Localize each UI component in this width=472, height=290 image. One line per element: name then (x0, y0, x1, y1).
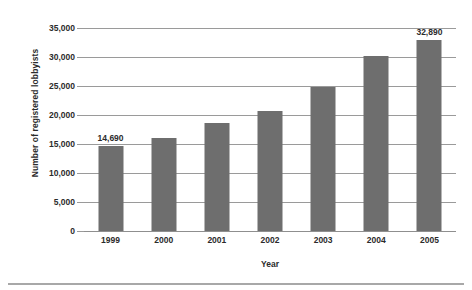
y-tick-label: 15,000 (49, 139, 75, 149)
y-tick-label: 10,000 (49, 168, 75, 178)
bar-chart-figure: Number of registered lobbyists 05,00010,… (0, 0, 472, 290)
bar-group-1999[interactable]: 14,6901999 (84, 28, 137, 231)
y-tick-label: 25,000 (49, 81, 75, 91)
y-axis-title: Number of registered lobbyists (30, 18, 40, 208)
x-tick-label-2000: 2000 (154, 235, 173, 245)
x-tick-label-2001: 2001 (207, 235, 226, 245)
y-tick-label: 20,000 (49, 110, 75, 120)
y-tick-mark-35000 (77, 28, 84, 29)
bar-2002[interactable] (257, 111, 282, 231)
y-tick-label: 0 (70, 226, 75, 236)
bar-2003[interactable] (311, 87, 336, 231)
bar-group-2004[interactable]: 2004 (350, 28, 403, 231)
bar-group-2000[interactable]: 2000 (137, 28, 190, 231)
bar-value-label-1999: 14,690 (98, 133, 124, 143)
bar-2001[interactable] (204, 123, 229, 231)
y-tick-label: 30,000 (49, 52, 75, 62)
x-tick-label-2005: 2005 (420, 235, 439, 245)
bar-2004[interactable] (364, 56, 389, 231)
y-tick-mark-5000 (77, 202, 84, 203)
y-tick-label: 5,000 (54, 197, 75, 207)
bar-1999[interactable] (98, 146, 123, 231)
y-tick-mark-20000 (77, 115, 84, 116)
y-tick-mark-10000 (77, 173, 84, 174)
x-tick-label-1999: 1999 (101, 235, 120, 245)
bar-group-2002[interactable]: 2002 (243, 28, 296, 231)
x-tick-label-2004: 2004 (367, 235, 386, 245)
bar-2000[interactable] (151, 138, 176, 231)
bottom-divider-rule (8, 283, 464, 285)
y-tick-mark-25000 (77, 86, 84, 87)
bar-value-label-2005: 32,890 (416, 27, 442, 37)
y-tick-mark-0 (77, 231, 84, 232)
x-tick-label-2002: 2002 (261, 235, 280, 245)
gridline-0 (84, 231, 456, 232)
plot-area: 05,00010,00015,00020,00025,00030,00035,0… (84, 28, 456, 231)
bar-group-2003[interactable]: 2003 (297, 28, 350, 231)
x-tick-label-2003: 2003 (314, 235, 333, 245)
bar-group-2005[interactable]: 32,8902005 (403, 28, 456, 231)
y-tick-label: 35,000 (49, 23, 75, 33)
bar-2005[interactable] (417, 40, 442, 231)
bars-layer: 14,69019992000200120022003200432,8902005 (84, 28, 456, 231)
y-tick-mark-30000 (77, 57, 84, 58)
x-axis-title: Year (84, 259, 456, 269)
y-tick-mark-15000 (77, 144, 84, 145)
bar-group-2001[interactable]: 2001 (190, 28, 243, 231)
